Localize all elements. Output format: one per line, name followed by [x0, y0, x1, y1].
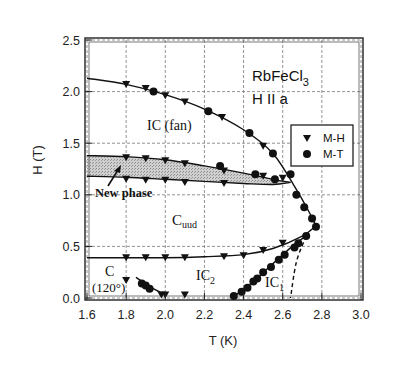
mt-point [230, 292, 238, 300]
mt-point [287, 170, 295, 178]
mt-point [269, 150, 277, 158]
mt-point [249, 277, 257, 285]
ic2-label: IC2 [196, 268, 215, 286]
x-tick-label: 3.0 [352, 308, 369, 322]
mh-point [181, 291, 189, 298]
mt-point [312, 223, 320, 231]
y-axis-label: H (T) [30, 145, 45, 175]
field-direction-label: H II a [252, 90, 289, 107]
x-tick-label: 2.8 [313, 308, 330, 322]
mt-point [275, 256, 283, 264]
mt-point [308, 215, 316, 223]
mh-point [218, 114, 226, 121]
mt-point [251, 170, 259, 178]
c120-angle-label: (120°) [92, 280, 125, 295]
mt-point [292, 191, 300, 199]
mt-point [216, 162, 224, 170]
mh-point [142, 177, 150, 184]
ic1-label: IC1 [265, 275, 284, 293]
x-tick-label: 2.2 [196, 308, 213, 322]
mt-point [146, 285, 154, 293]
x-tick-label: 2.4 [235, 308, 252, 322]
ic-fan-label: IC (fan) [147, 118, 192, 134]
y-tick-label: 2.0 [63, 85, 80, 99]
legend-mh: M-H [323, 132, 345, 144]
phase-diagram: 1.61.82.02.22.42.62.83.0 0.00.51.01.52.0… [0, 0, 408, 372]
x-axis-label: T (K) [209, 333, 238, 348]
cuud-label: Cuud [172, 212, 197, 230]
x-tick-label: 2.0 [157, 308, 174, 322]
circle-marker-icon [303, 150, 311, 158]
mt-point [245, 129, 253, 137]
compound-label: RbFeCl3 [252, 67, 309, 88]
mt-point [238, 288, 246, 296]
mt-point [302, 232, 310, 240]
c120-label: C [105, 264, 114, 279]
x-tick-label: 1.6 [78, 308, 95, 322]
mt-point [290, 243, 298, 251]
legend: M-H M-T [291, 125, 353, 166]
y-tick-label: 0.5 [63, 240, 80, 254]
mh-point [122, 176, 130, 183]
x-tick-label: 1.8 [117, 308, 134, 322]
mh-point [240, 252, 248, 259]
new-phase-label: New phase [95, 186, 153, 200]
mt-point [267, 263, 275, 271]
y-tick-label: 2.5 [63, 34, 80, 48]
x-tick-label: 2.6 [274, 308, 291, 322]
mh-point [181, 179, 189, 186]
y-tick-label: 1.5 [63, 137, 80, 151]
mt-point [300, 203, 308, 211]
y-tick-label: 1.0 [63, 188, 80, 202]
mt-point [204, 107, 212, 115]
mt-point [271, 175, 279, 183]
legend-mt: M-T [323, 148, 343, 160]
mt-point [150, 88, 158, 96]
mh-point [161, 177, 169, 184]
y-tick-label: 0.0 [63, 292, 80, 306]
x-axis-ticks: 1.61.82.02.22.42.62.83.0 [78, 293, 369, 322]
mh-point [220, 180, 228, 187]
